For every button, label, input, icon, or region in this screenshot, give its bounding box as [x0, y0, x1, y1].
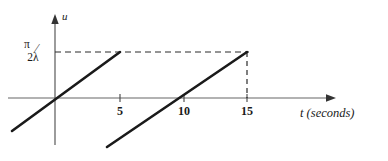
x-tick-label-5: 5 — [117, 104, 123, 118]
x-axis-label: t (seconds) — [300, 106, 355, 120]
x-axis-arrowhead — [326, 94, 336, 102]
x-tick-label-15: 15 — [241, 104, 253, 118]
y-tick-denominator: 2λ — [27, 51, 39, 63]
chart-canvas: u π ⁄ 2λ 5 10 15 t (seconds) — [0, 0, 388, 161]
x-tick-label-10: 10 — [178, 104, 190, 118]
sawtooth-ramp-2 — [107, 52, 247, 147]
y-tick-label-pi-over-2lambda: π ⁄ 2λ — [24, 38, 40, 63]
y-axis-arrowhead — [51, 14, 58, 24]
sawtooth-ramp-1 — [12, 52, 120, 131]
y-tick-numerator: π — [24, 38, 30, 50]
y-axis-label: u — [62, 10, 68, 22]
sawtooth-phase-chart: u π ⁄ 2λ 5 10 15 t (seconds) — [0, 0, 388, 161]
